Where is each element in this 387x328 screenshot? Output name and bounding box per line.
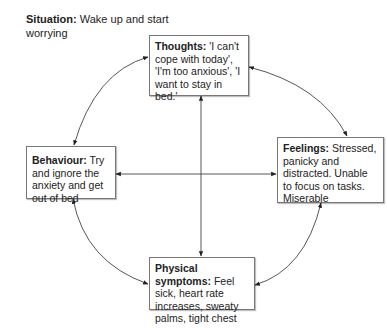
situation-label: Situation: <box>26 13 77 25</box>
feelings-label: Feelings: <box>283 142 329 154</box>
thoughts-label: Thoughts: <box>155 40 206 52</box>
node-feelings: Feelings: Stressed, panicky and distract… <box>277 137 384 203</box>
node-behaviour: Behaviour: Try and ignore the anxiety an… <box>26 146 116 199</box>
edge-behaviour-physical <box>73 199 148 284</box>
edge-feelings-physical <box>255 203 321 285</box>
edge-thoughts-behaviour <box>74 57 148 145</box>
edge-thoughts-feelings <box>249 67 347 136</box>
physical-label: Physical symptoms: <box>155 262 211 287</box>
behaviour-label: Behaviour: <box>32 154 87 166</box>
node-physical-symptoms: Physical symptoms: Feel sick, heart rate… <box>149 257 255 310</box>
node-thoughts: Thoughts: 'I can't cope with today', 'I'… <box>149 35 249 96</box>
